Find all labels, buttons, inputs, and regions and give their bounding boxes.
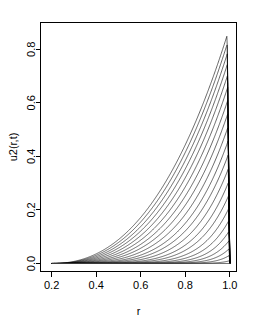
- curve-t18: [52, 65, 230, 264]
- curve-t14: [52, 114, 230, 264]
- curve-t16: [52, 87, 230, 263]
- curve-t13: [52, 128, 230, 264]
- curve-t15: [52, 101, 230, 264]
- chart-canvas: 0.20.40.60.81.00.00.20.40.60.8ru2(r,t): [0, 0, 260, 328]
- curve-t11: [52, 155, 230, 263]
- plot-frame: [41, 23, 237, 272]
- y-tick-label-2: 0.4: [26, 149, 38, 164]
- x-tick-label-0: 0.2: [44, 279, 59, 291]
- curve-t06: [52, 221, 230, 263]
- curve-t09: [52, 183, 230, 263]
- curve-t12: [52, 141, 230, 264]
- y-tick-label-4: 0.8: [26, 42, 38, 57]
- y-tick-label-0: 0.0: [26, 256, 38, 271]
- curve-t19: [52, 54, 230, 264]
- plot-figure: 0.20.40.60.81.00.00.20.40.60.8ru2(r,t): [0, 0, 260, 328]
- x-tick-label-4: 1.0: [222, 279, 237, 291]
- curve-t21: [52, 36, 230, 263]
- x-axis-title: r: [137, 305, 141, 317]
- x-tick-label-1: 0.4: [89, 279, 104, 291]
- axes-group: [36, 23, 237, 277]
- curve-t10: [52, 169, 230, 263]
- curve-t08: [52, 196, 230, 264]
- x-tick-label-3: 0.8: [178, 279, 193, 291]
- y-tick-label-1: 0.2: [26, 202, 38, 217]
- y-axis-title: u2(r,t): [7, 133, 19, 162]
- curve-series-group: [52, 36, 230, 263]
- x-tick-label-2: 0.6: [133, 279, 148, 291]
- y-tick-label-3: 0.6: [26, 95, 38, 110]
- axis-labels-group: 0.20.40.60.81.00.00.20.40.60.8ru2(r,t): [7, 42, 237, 317]
